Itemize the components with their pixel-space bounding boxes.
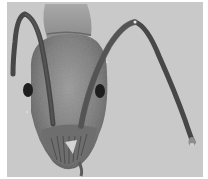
left-eye	[23, 83, 33, 97]
ant-head-photo: Grayscale micrograph of an ant head with…	[7, 2, 203, 177]
right-eye	[95, 84, 105, 98]
ant-head-illustration	[7, 2, 203, 177]
